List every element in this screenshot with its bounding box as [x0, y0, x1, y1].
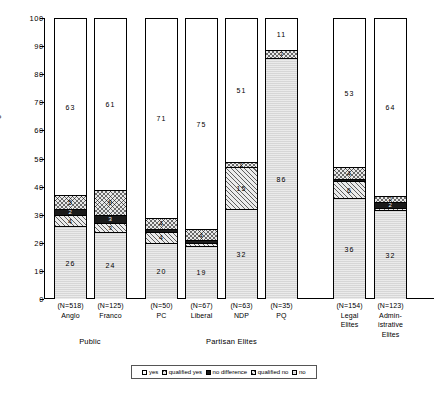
bar-segment: 32 [375, 210, 406, 299]
bar-column: 534636 [333, 18, 366, 299]
bar-segment-value: 4 [68, 218, 73, 225]
bar-segment: 71 [146, 19, 177, 218]
bar-segment-value: 4 [159, 234, 164, 241]
bar-segment: 15 [226, 167, 257, 209]
bar-segment: 4 [186, 229, 217, 240]
bar-segment-value: 15 [236, 185, 246, 192]
category-name-label: PQ [251, 311, 312, 321]
bar-column: 642232 [374, 18, 407, 299]
bar-column: 75419 [185, 18, 218, 299]
bar-column: 714420 [145, 18, 178, 299]
bar-segment-value: 61 [105, 101, 115, 108]
bar-column: 5121532 [225, 18, 258, 299]
bar-segment-value: 3 [109, 216, 113, 223]
bar-column: 11386 [265, 18, 298, 299]
x-axis-group-label: Public [52, 337, 128, 346]
x-axis-category: (N=35)PQ [251, 301, 312, 320]
legend-label: no [299, 369, 306, 375]
bar-segment: 4 [146, 232, 177, 243]
legend-item: qualified yes [162, 369, 202, 375]
bar-segment: 64 [375, 19, 406, 196]
bar-segment-value: 3 [280, 51, 284, 58]
bar-segment: 11 [266, 19, 297, 50]
bar-segment-value: 26 [65, 260, 75, 267]
bar-segment: 3 [95, 215, 126, 223]
legend-label: qualified yes [169, 369, 202, 375]
legend-item: qualified no [251, 369, 288, 375]
bar-segment: 24 [95, 232, 126, 299]
bar-segment-value: 5 [68, 199, 73, 206]
bar-segment: 75 [186, 19, 217, 229]
chart-legend: yesqualified yesno differencequalified n… [131, 365, 317, 379]
bar-segment-value: 32 [385, 252, 395, 259]
bar-segment-value: 24 [105, 262, 115, 269]
bar-segment: 4 [55, 215, 86, 226]
bar-segment-value: 75 [196, 121, 206, 128]
category-name-label: Admin- [360, 311, 421, 321]
bar-segment-value: 3 [109, 225, 113, 232]
bar-segment: 20 [146, 243, 177, 299]
bar-segment-value: 4 [199, 232, 204, 239]
bar-segment-value: 6 [347, 187, 352, 194]
legend-swatch-icon [251, 370, 256, 375]
sample-size-label: (N=35) [251, 301, 312, 311]
bar-segment: 6 [334, 181, 365, 198]
bar-segment-value: 71 [156, 115, 166, 122]
bar-segment-value: 11 [277, 31, 287, 38]
bar-segment: 53 [334, 19, 365, 167]
bar-segment: 61 [95, 19, 126, 190]
chart-canvas: Percentage 1009080706050403020100 635242… [0, 0, 448, 397]
bar-segment: 51 [226, 19, 257, 162]
legend-item: no [292, 369, 305, 375]
bar-segment-value: 4 [159, 220, 164, 227]
bar-segment-value: 86 [276, 176, 286, 183]
bar-segment-value: 32 [236, 251, 246, 258]
bar-segment: 32 [226, 209, 257, 299]
bar-segment: 4 [146, 218, 177, 229]
bar-column: 6352426 [54, 18, 87, 299]
bar-segment: 86 [266, 58, 297, 299]
bar-segment-value: 2 [69, 209, 73, 216]
legend-item: no difference [206, 369, 247, 375]
category-name-label: istrative [360, 320, 421, 330]
legend-label: yes [149, 369, 158, 375]
bar-column: 6193324 [94, 18, 127, 299]
x-axis-category: (N=123)Admin-istrativeElites [360, 301, 421, 339]
bar-segment-value: 51 [236, 87, 246, 94]
legend-swatch-icon [162, 370, 167, 375]
bar-group: 6352426619332471442075419512153211386534… [44, 18, 434, 299]
bar-segment: 3 [266, 50, 297, 58]
legend-swatch-icon [292, 370, 297, 375]
bar-segment-value: 9 [108, 199, 113, 206]
bar-segment: 4 [334, 167, 365, 178]
bar-segment: 36 [334, 198, 365, 299]
legend-label: qualified no [258, 369, 289, 375]
legend-swatch-icon [206, 370, 211, 375]
bar-segment-value: 64 [385, 104, 395, 111]
bar-segment-value: 53 [344, 90, 354, 97]
bar-segment: 9 [95, 190, 126, 215]
bar-segment-value: 2 [240, 162, 244, 169]
x-axis-group-label: Partisan Elites [144, 337, 319, 346]
bar-segment-value: 20 [156, 268, 166, 275]
sample-size-label: (N=123) [360, 301, 421, 311]
bar-segment-value: 19 [196, 269, 206, 276]
bar-segment-value: 4 [347, 170, 352, 177]
bar-segment-value: 2 [389, 202, 393, 209]
bar-segment-value: 36 [344, 246, 354, 253]
legend-item: yes [142, 369, 158, 375]
bar-segment: 26 [55, 226, 86, 299]
bar-segment: 63 [55, 19, 86, 195]
bar-segment-value: 63 [65, 104, 75, 111]
y-axis-tick-mark [40, 299, 44, 300]
x-axis-group-labels: PublicPartisan Elites [44, 337, 434, 353]
bar-segment: 19 [186, 246, 217, 299]
legend-label: no difference [213, 369, 248, 375]
bar-segment: 5 [55, 195, 86, 209]
bar-segment: 3 [95, 223, 126, 231]
legend-swatch-icon [142, 370, 147, 375]
